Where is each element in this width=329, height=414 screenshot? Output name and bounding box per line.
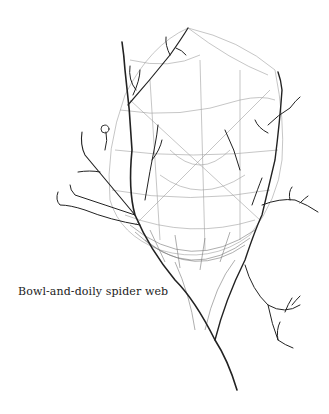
web-dome — [109, 28, 283, 255]
spider-web-illustration — [0, 0, 329, 414]
branches — [57, 28, 318, 390]
figure-caption: Bowl-and-doily spider web — [18, 285, 168, 298]
